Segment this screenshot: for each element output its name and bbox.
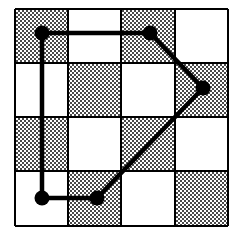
- figure-container: [0, 0, 242, 234]
- polygon-vertex-top-right-vertex: [143, 26, 158, 41]
- polygon-vertex-bottom-right-vertex: [90, 191, 105, 206]
- grid-cell-shaded-r4c4: [175, 171, 228, 226]
- polygon-vertex-bottom-left-vertex: [35, 191, 50, 206]
- polygon-vertex-right-vertex: [196, 81, 211, 96]
- polygon-vertex-top-left-vertex: [35, 26, 50, 41]
- grid-cell-shaded-r2c2: [68, 63, 121, 117]
- checkerboard-polygon-diagram: [0, 0, 242, 234]
